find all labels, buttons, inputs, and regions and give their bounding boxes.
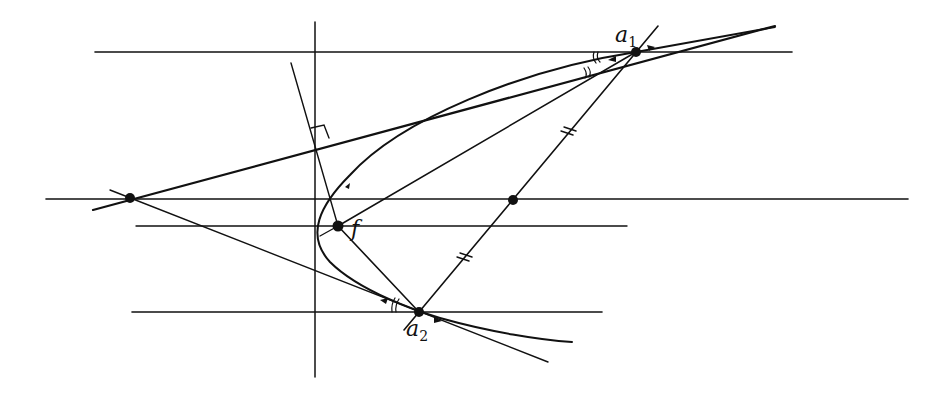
- angle-arc-a1-2: [597, 52, 600, 62]
- point-midpoint: [508, 195, 518, 205]
- angle-arc-a2-2: [396, 299, 399, 312]
- label-a1: a1: [615, 22, 637, 50]
- parabola-curve: [317, 52, 636, 342]
- arrow-curve: [345, 183, 350, 189]
- arrow-a2-left: [380, 298, 388, 304]
- focus-to-a1: [338, 52, 636, 226]
- equal-tick-upper: [561, 127, 576, 135]
- parabola-tangent-diagram: a1 a2 f: [0, 0, 949, 395]
- label-focus: f: [349, 216, 363, 241]
- label-a2: a2: [406, 316, 428, 344]
- parabola-curve-upper: [636, 27, 775, 52]
- tangent-line-a1: [93, 26, 775, 210]
- angle-arc-a1-1: [593, 52, 596, 63]
- right-angle-marker: [311, 125, 329, 138]
- chord-a1-a2: [404, 26, 658, 330]
- point-tangent-intersection: [125, 193, 135, 203]
- point-focus: [333, 221, 344, 232]
- tangent-line-a2: [110, 190, 548, 362]
